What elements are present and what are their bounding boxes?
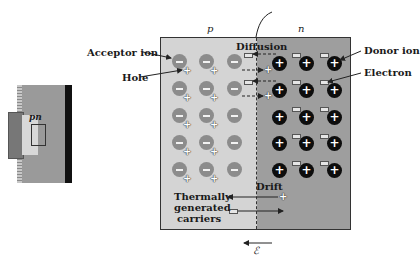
n-region-label: n — [298, 23, 304, 34]
acceptor-ion-label: Acceptor ion — [87, 47, 158, 58]
junction-leader-line — [256, 12, 272, 37]
hole-label: Hole — [122, 72, 148, 83]
drift-label: Drift — [256, 181, 283, 192]
electron-label: Electron — [364, 67, 412, 78]
diffusion-label: Diffusion — [236, 41, 287, 52]
donor-leader-arrow — [340, 51, 361, 60]
thermal-label-line1: Thermally — [174, 191, 224, 202]
thermal-label-line2: generated — [174, 202, 224, 213]
donor-ion-label: Donor ion — [364, 45, 420, 56]
p-region-label: p — [207, 23, 213, 34]
electric-field-label: ℰ — [253, 245, 259, 256]
electron-leader-arrow — [328, 73, 361, 82]
thermal-label-line3: carriers — [174, 213, 224, 224]
